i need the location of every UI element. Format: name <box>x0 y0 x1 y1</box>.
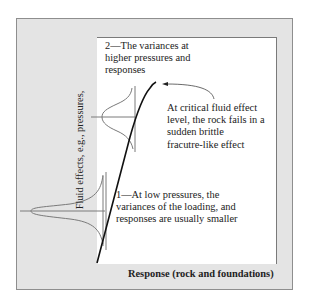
annotation-low: 1—At low pressures, the variances of the… <box>116 189 237 226</box>
annotation-critical-line4: fracutre-like effect <box>167 139 265 151</box>
arrow-head-icon <box>162 82 168 86</box>
annotation-critical-line2: level, the rock fails in a <box>167 114 265 126</box>
annotation-critical-line1: At critical fluid effect <box>167 102 265 114</box>
annotation-low-line3: responses are usually smaller <box>116 213 237 225</box>
annotation-high: 2—The variances at higher pressures and … <box>105 40 190 77</box>
arrow-line <box>166 84 214 99</box>
annotation-high-line2: higher pressures and <box>105 52 190 64</box>
critical-arrow <box>162 82 214 99</box>
annotation-critical-line3: sudden brittle <box>167 126 265 138</box>
lower-bell-curve <box>31 175 103 244</box>
y-axis-label: Fluid effects, e.g., pressures, <box>74 91 85 210</box>
annotation-critical: At critical fluid effect level, the rock… <box>167 102 265 151</box>
upper-bell-curve <box>102 88 133 149</box>
annotation-low-line1: 1—At low pressures, the <box>116 189 237 201</box>
annotation-low-line2: variances of the loading, and <box>116 201 237 213</box>
lower-distribution <box>20 172 106 250</box>
annotation-high-line3: responses <box>105 64 190 76</box>
annotation-high-line1: 2—The variances at <box>105 40 190 52</box>
x-axis-label: Response (rock and foundations) <box>128 268 274 279</box>
